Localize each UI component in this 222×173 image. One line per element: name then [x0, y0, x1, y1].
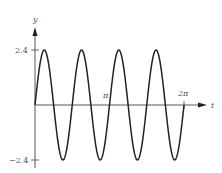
sine-plot: y t 2.4 −2.4 π 2π [0, 0, 222, 173]
x-tick-label-pi: π [102, 91, 109, 100]
x-axis-arrow-icon [198, 103, 207, 108]
y-tick-label-min: −2.4 [9, 156, 28, 165]
x-axis-label: t [211, 101, 215, 110]
y-axis-arrow-icon [33, 27, 38, 36]
x-tick-label-2pi: 2π [177, 89, 189, 98]
y-tick-label-max: 2.4 [15, 46, 28, 55]
y-axis-label: y [32, 15, 38, 24]
